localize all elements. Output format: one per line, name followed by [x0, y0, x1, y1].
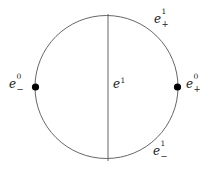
label-e0-plus-subscript: + — [194, 85, 201, 94]
label-e1-minus-superscript: 1 — [161, 140, 168, 148]
label-e1-plus-base: e — [154, 12, 161, 26]
label-e1-plus: e1+ — [154, 11, 169, 27]
label-e1-minus-scripts: 1− — [161, 143, 168, 159]
label-e1-minus-base: e — [153, 144, 160, 158]
label-e1-middle: e1 — [113, 78, 125, 90]
label-e1-middle-superscript: 1 — [121, 77, 126, 85]
label-e1-plus-subscript: + — [162, 20, 169, 29]
label-e0-minus-base: e — [9, 77, 16, 91]
circle-diagram-canvas — [0, 0, 217, 175]
label-e1-minus: e1− — [153, 143, 168, 159]
label-e0-minus-scripts: 0− — [17, 76, 24, 92]
label-e0-minus-subscript: − — [17, 85, 24, 94]
label-e1-plus-scripts: 1+ — [162, 11, 169, 27]
label-e0-plus: e0+ — [186, 76, 201, 92]
cw-complex-figure: e0− e0+ e1+ e1− e1 — [0, 0, 217, 175]
label-e0-plus-base: e — [186, 77, 193, 91]
label-e0-minus: e0− — [9, 76, 24, 92]
label-e0-plus-superscript: 0 — [194, 73, 201, 81]
label-e1-plus-superscript: 1 — [162, 8, 169, 16]
label-e1-minus-subscript: − — [161, 152, 168, 161]
label-e1-middle-base: e — [113, 77, 120, 91]
right-vertex-dot — [174, 83, 181, 90]
label-e1-middle-scripts: 1 — [121, 81, 126, 89]
label-e0-plus-scripts: 0+ — [194, 76, 201, 92]
left-vertex-dot — [32, 83, 39, 90]
label-e0-minus-superscript: 0 — [17, 73, 24, 81]
circle-outline — [35, 16, 178, 159]
